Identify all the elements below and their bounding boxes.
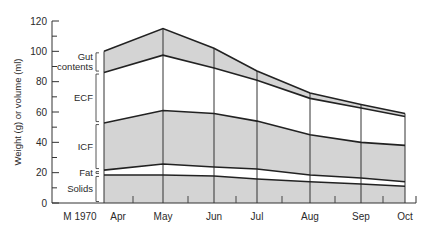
band-label-fat: Fat <box>79 167 93 178</box>
band-label-ecf: ECF <box>74 92 93 103</box>
band-label-icf: ICF <box>78 141 94 152</box>
y-tick-label: 120 <box>30 16 47 27</box>
y-axis-label: Weight (g) or volume (ml) <box>12 59 23 166</box>
bracket-ecf <box>96 74 99 122</box>
y-tick-label: 40 <box>36 137 48 148</box>
x-tick-label: Sep <box>352 211 370 222</box>
y-tick-label: 80 <box>36 76 48 87</box>
x-tick-label: Jun <box>206 211 222 222</box>
band-label-solids: Solids <box>67 183 93 194</box>
band-label-brackets: GutcontentsECFICFFatSolids <box>57 51 99 201</box>
bracket-fat <box>96 172 99 174</box>
y-tick-label: 60 <box>36 107 48 118</box>
bracket-gut-contents <box>96 53 99 71</box>
x-tick-label: Oct <box>397 211 413 222</box>
chart-bands <box>104 29 405 203</box>
bracket-icf <box>96 125 99 169</box>
y-tick-label: 0 <box>41 198 47 209</box>
band-label-gut-contents: contents <box>57 61 93 72</box>
x-tick-label: Apr <box>110 211 126 222</box>
chart-canvas: 020406080100120M 1970AprMayJunJulAugSepO… <box>0 0 433 236</box>
x-tick-label: Aug <box>301 211 319 222</box>
stacked-area-chart: 020406080100120M 1970AprMayJunJulAugSepO… <box>0 0 433 236</box>
x-tick-label: May <box>154 211 173 222</box>
x-start-label: M 1970 <box>63 211 97 222</box>
bracket-solids <box>96 176 99 201</box>
y-tick-label: 20 <box>36 167 48 178</box>
y-tick-label: 100 <box>30 46 47 57</box>
x-tick-label: Jul <box>251 211 264 222</box>
